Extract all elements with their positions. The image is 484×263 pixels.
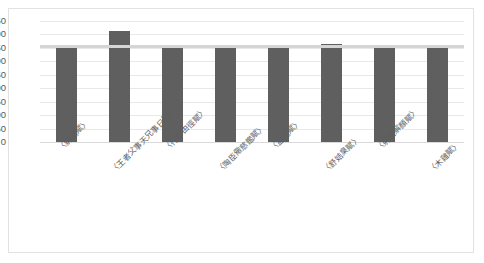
gridline-150 — [40, 102, 464, 103]
y-axis-tick-label: 0 — [0, 137, 6, 146]
bar — [109, 31, 130, 142]
y-axis-tick-label: 100 — [0, 110, 6, 119]
y-axis-tick-label: 200 — [0, 83, 6, 92]
bar — [215, 47, 236, 142]
bar — [427, 46, 448, 142]
gridline-250 — [40, 75, 464, 76]
y-axis-tick-label: 250 — [0, 70, 6, 79]
gridline-450 — [40, 21, 464, 22]
y-axis-tick-label: 400 — [0, 29, 6, 38]
y-axis-tick-label: 150 — [0, 97, 6, 106]
x-axis-label: 〈木雞賦〉 — [426, 139, 462, 175]
y-axis-tick-label: 50 — [0, 124, 6, 133]
chart-frame: 450400350300250200150100500 〈解嘲賦〉〈王者父事天兄… — [8, 8, 474, 253]
y-axis-tick-label: 300 — [0, 56, 6, 65]
x-axis-category-labels: 〈解嘲賦〉〈王者父事天兄事日賦〉〈行不由徑賦〉〈陶臣儆慈鑑賦〉〈盆池賦〉〈舒姞臬… — [40, 145, 464, 245]
bar — [321, 44, 342, 142]
gridline-400 — [40, 34, 464, 35]
y-axis-tick-label: 350 — [0, 43, 6, 52]
y-axis-tick-label: 450 — [0, 16, 6, 25]
gridline-300 — [40, 61, 464, 62]
overlay-trend-line — [40, 45, 464, 48]
y-axis: 450400350300250200150100500 — [0, 21, 6, 142]
gridline-200 — [40, 88, 464, 89]
gridline-350 — [40, 48, 464, 49]
